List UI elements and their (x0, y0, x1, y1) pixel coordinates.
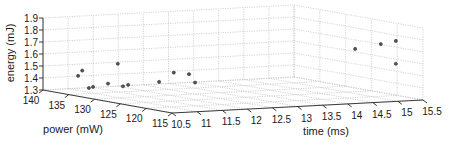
energy-tick-label: 1.8 (24, 25, 38, 36)
data-point (116, 62, 119, 65)
energy-tick-label: 1.6 (24, 49, 38, 60)
gridline-time-floor (194, 82, 323, 105)
time-tick (222, 110, 226, 113)
ylabel: time (ms) (303, 125, 349, 137)
time-tick (298, 107, 302, 110)
data-point (193, 81, 196, 84)
gridline-time-floor (118, 86, 247, 109)
time-tick-label: 15 (401, 107, 413, 118)
time-tick-label: 15.5 (422, 106, 442, 117)
time-tick (348, 104, 352, 107)
xlabel: power (mW) (43, 123, 103, 135)
energy-tick-label: 1.3 (24, 85, 38, 96)
gridline-time-floor (294, 77, 423, 100)
gridline-power-floor (146, 95, 397, 108)
gridline-z-side (294, 65, 423, 88)
time-tick-label: 14 (351, 110, 363, 121)
gridline-time-floor (269, 78, 398, 101)
gridline-time-floor (244, 80, 373, 103)
time-tick-label: 11 (201, 118, 212, 129)
time-tick-label: 14.5 (372, 109, 392, 120)
gridline-power-floor (120, 91, 371, 104)
data-point (187, 73, 190, 76)
time-tick-label: 10.5 (171, 119, 191, 130)
data-point (394, 62, 397, 65)
gridline-time-floor (219, 81, 348, 104)
tick-labels: 1.31.41.51.61.71.81.91401351301251201151… (23, 13, 443, 131)
gridline-z-side (294, 17, 423, 40)
3d-scatter-chart: 1.31.41.51.61.71.81.91401351301251201151… (0, 0, 452, 145)
power-tick (116, 104, 120, 107)
power-tick-label: 120 (126, 113, 143, 124)
energy-tick-label: 1.5 (24, 61, 38, 72)
time-tick-label: 11.5 (222, 116, 241, 127)
data-point (106, 82, 109, 85)
energy-tick-label: 1.9 (24, 13, 38, 24)
time-tick (247, 109, 251, 112)
gridline-time-floor (143, 85, 272, 108)
gridline-power-floor (43, 77, 294, 90)
time-tick-label: 12.5 (272, 114, 292, 125)
power-tick-label: 125 (100, 109, 117, 120)
data-points (76, 39, 397, 89)
gridline-z-side (294, 29, 423, 52)
energy-tick-label: 1.7 (24, 37, 38, 48)
time-tick (272, 108, 276, 111)
data-point (354, 47, 357, 50)
power-tick-label: 140 (23, 95, 40, 106)
time-tick (373, 103, 377, 106)
gridline-z-side (294, 5, 423, 28)
time-tick-label: 13 (301, 113, 313, 124)
gridline-time-floor (93, 87, 222, 110)
zlabel: energy (mJ) (4, 24, 16, 83)
gridline-time-floor (169, 84, 298, 107)
axis-layer (39, 18, 427, 116)
data-point (172, 71, 175, 74)
energy-tick-label: 1.4 (24, 73, 38, 84)
time-tick (197, 112, 201, 115)
power-tick-label: 115 (152, 118, 168, 129)
power-tick (142, 108, 146, 111)
time-tick-label: 13.5 (322, 111, 342, 122)
data-point (394, 39, 397, 42)
power-tick-label: 135 (48, 100, 65, 111)
data-point (158, 80, 161, 83)
data-point (81, 69, 84, 72)
gridline-z-side (294, 41, 423, 64)
data-point (379, 43, 382, 46)
grid-layer (43, 5, 423, 113)
data-point (76, 74, 79, 77)
power-tick (168, 113, 172, 116)
data-point (121, 85, 124, 88)
data-point (87, 86, 90, 89)
gridline-z-side (294, 53, 423, 76)
gridline-power-floor (95, 86, 346, 99)
time-tick (172, 113, 176, 116)
data-point (127, 83, 130, 86)
power-tick (65, 95, 69, 98)
time-tick-label: 12 (251, 115, 263, 126)
time-tick (423, 100, 427, 103)
power-tick-label: 130 (74, 104, 91, 115)
time-tick (323, 105, 327, 108)
data-point (91, 85, 94, 88)
time-tick (398, 101, 402, 104)
power-tick (91, 99, 95, 102)
